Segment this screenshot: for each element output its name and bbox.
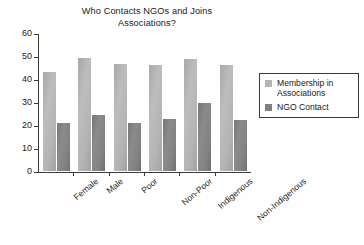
bar xyxy=(220,65,233,171)
y-axis-tick xyxy=(34,172,38,173)
legend-item-membership-in-associations: Membership in Associations xyxy=(265,78,354,98)
y-axis-tick-label: 20 xyxy=(8,120,32,130)
chart-legend: Membership in Associations NGO Contact xyxy=(259,73,359,118)
bar xyxy=(163,119,176,171)
chart-title-line-2: Associations? xyxy=(118,18,176,28)
legend-swatch-icon-series-a xyxy=(265,80,272,87)
bar-group xyxy=(43,33,70,171)
bar-group xyxy=(220,33,247,171)
bar-group xyxy=(114,33,141,171)
legend-label-series-b: NGO Contact xyxy=(277,102,329,112)
plot-area: 0102030405060 xyxy=(38,34,250,172)
y-axis-tick xyxy=(34,103,38,104)
bar xyxy=(92,115,105,171)
bar xyxy=(57,123,70,171)
x-axis-tick xyxy=(215,172,216,176)
y-axis-tick-label: 30 xyxy=(8,97,32,107)
y-axis-tick-label: 40 xyxy=(8,74,32,84)
chart-title-line-1: Who Contacts NGOs and Joins xyxy=(82,6,212,16)
y-axis-line xyxy=(38,34,39,173)
chart-title: Who Contacts NGOs and Joins Associations… xyxy=(52,6,242,29)
y-axis-tick-label: 60 xyxy=(8,28,32,38)
y-axis-tick xyxy=(34,80,38,81)
y-axis-tick xyxy=(34,149,38,150)
y-axis-tick-label: 10 xyxy=(8,143,32,153)
bar xyxy=(184,59,197,171)
y-axis-tick xyxy=(34,34,38,35)
bar xyxy=(234,120,247,171)
x-axis-label: Female xyxy=(71,176,99,202)
legend-label-series-a-line-2: Associations xyxy=(277,88,325,98)
bar-group xyxy=(149,33,176,171)
x-axis-tick xyxy=(179,172,180,176)
x-axis-label: Non-Poor xyxy=(179,176,214,207)
y-axis-tick xyxy=(34,57,38,58)
x-axis-tick xyxy=(109,172,110,176)
legend-label-series-a: Membership in Associations xyxy=(277,78,333,98)
x-axis-tick xyxy=(73,172,74,176)
x-axis-label: Poor xyxy=(139,176,159,195)
bar xyxy=(78,58,91,171)
legend-item-ngo-contact: NGO Contact xyxy=(265,102,354,112)
bar xyxy=(43,72,56,171)
x-axis-label: Non-Indigenous xyxy=(255,176,308,223)
bar xyxy=(114,64,127,171)
bar xyxy=(149,65,162,171)
y-axis-tick-label: 0 xyxy=(8,166,32,176)
bar-group xyxy=(184,33,211,171)
x-axis-label: Male xyxy=(104,176,125,196)
x-axis-label: Indigenous xyxy=(216,176,255,211)
y-axis-tick xyxy=(34,126,38,127)
legend-swatch-icon-series-b xyxy=(265,104,272,111)
legend-label-series-a-line-1: Membership in xyxy=(277,78,333,88)
bar xyxy=(198,103,211,171)
bar xyxy=(128,123,141,171)
x-axis-tick xyxy=(144,172,145,176)
chart-container: Who Contacts NGOs and Joins Associations… xyxy=(0,0,364,245)
bar-group xyxy=(78,33,105,171)
y-axis-tick-label: 50 xyxy=(8,51,32,61)
